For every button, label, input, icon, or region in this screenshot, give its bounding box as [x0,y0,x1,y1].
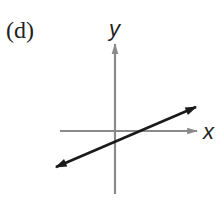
coordinate-graph: x y [0,0,224,210]
x-axis-label: x [202,119,215,144]
y-axis-label: y [107,16,122,41]
plotted-line [56,107,196,167]
